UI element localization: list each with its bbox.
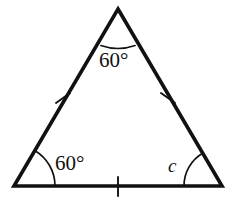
apex-angle-label: 60° [99,50,128,71]
bottom-right-angle-label: c [168,156,176,175]
geometry-figure: 60° 60° c [0,0,236,209]
triangle-diagram-svg [0,0,236,209]
bottom-left-angle-label: 60° [55,153,84,174]
